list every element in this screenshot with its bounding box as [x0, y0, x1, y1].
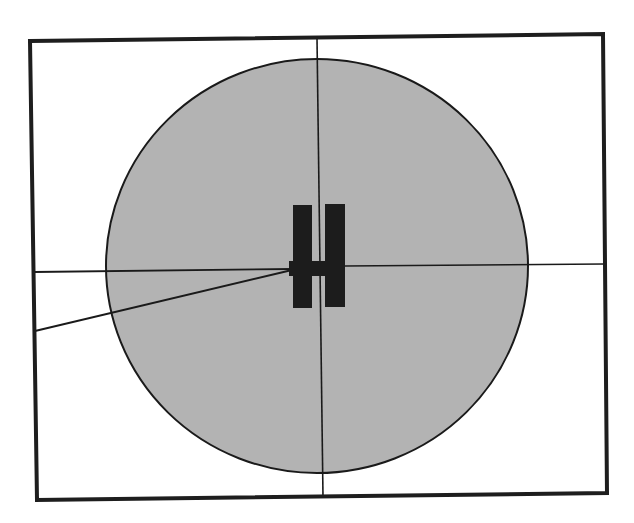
diagram-canvas [0, 0, 634, 523]
h-left-bar [293, 205, 312, 308]
h-right-bar [325, 204, 345, 307]
h-crossbar [289, 261, 345, 276]
